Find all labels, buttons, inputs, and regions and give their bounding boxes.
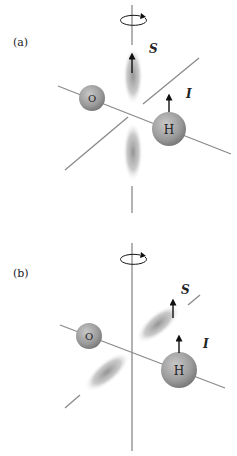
hydrogen-label: H [164, 123, 174, 137]
orbital-lobe-upper [123, 47, 143, 105]
oxygen-label: O [88, 93, 96, 104]
oxygen-label: O [85, 331, 93, 342]
diagonal-axis-lower [65, 395, 80, 408]
diagonal-axis-lower [65, 117, 128, 170]
hydrogen-label: H [174, 364, 184, 378]
orbital-lobe-lower [123, 122, 143, 182]
orbital-lobe-upper [130, 298, 186, 350]
spin-i-label: I [202, 337, 209, 351]
figure: (a) O H S I (b) [0, 0, 237, 456]
spin-s-label: S [149, 42, 158, 56]
rotation-arrow-icon [120, 13, 146, 25]
orbital-lobe-lower [78, 346, 135, 399]
rotation-arrow-icon [120, 252, 146, 264]
diagonal-axis-upper [188, 295, 200, 305]
panel-b: (b) O H S I [13, 243, 225, 451]
panel-a-label: (a) [13, 36, 28, 49]
spin-s-label: S [181, 283, 190, 297]
panel-a: (a) O H S I [13, 5, 231, 213]
panel-b-label: (b) [13, 267, 29, 280]
spin-i-label: I [185, 87, 192, 101]
